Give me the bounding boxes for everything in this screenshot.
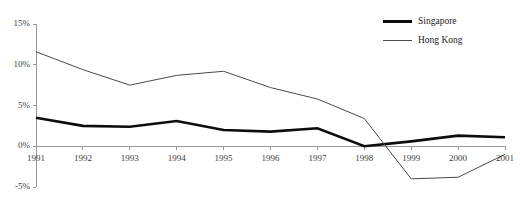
y-axis-tick-label: 5%	[0, 100, 30, 110]
legend-label-hong-kong: Hong Kong	[418, 36, 463, 46]
chart-legend: Singapore Hong Kong	[383, 12, 513, 50]
x-axis-tick-label: 1998	[344, 153, 384, 163]
x-axis-tick-label: 1992	[63, 153, 103, 163]
x-axis-tick-label: 1991	[16, 153, 56, 163]
x-axis-tick-label: 1997	[297, 153, 337, 163]
x-axis-tick-label: 2001	[485, 153, 520, 163]
legend-item-singapore: Singapore	[383, 12, 513, 31]
y-axis-tick-label: 0%	[0, 140, 30, 150]
x-axis-tick-label: 1996	[251, 153, 291, 163]
y-axis-tick-label: 10%	[0, 59, 30, 69]
legend-line-swatch-hong-kong	[383, 40, 412, 41]
legend-label-singapore: Singapore	[418, 17, 457, 27]
x-axis-tick-label: 1995	[204, 153, 244, 163]
y-axis-tick-label: -5%	[0, 181, 30, 191]
legend-item-hong-kong: Hong Kong	[383, 31, 513, 50]
x-axis-tick-label: 2000	[438, 153, 478, 163]
line-chart: 15%10%5%0%-5% 19911992199319941995199619…	[0, 0, 520, 205]
legend-line-swatch-singapore	[383, 20, 412, 23]
y-axis-tick-label: 15%	[0, 18, 30, 28]
x-axis-tick-label: 1994	[157, 153, 197, 163]
x-axis-tick-label: 1993	[110, 153, 150, 163]
x-axis-tick-label: 1999	[391, 153, 431, 163]
